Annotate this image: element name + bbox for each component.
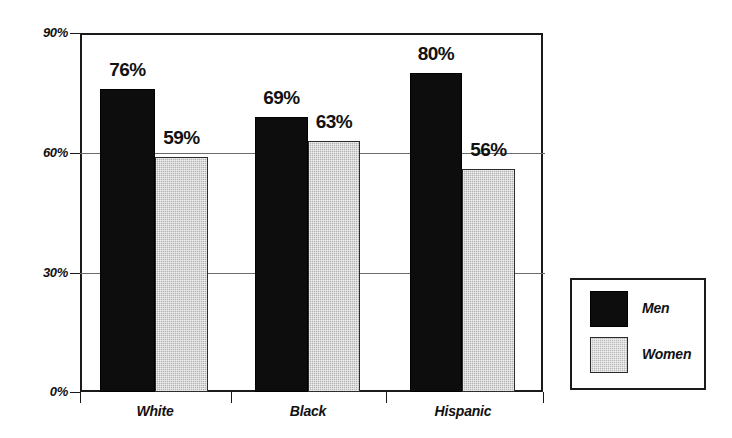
x-tick-start <box>80 392 81 403</box>
value-label-white-women: 59% <box>155 128 208 147</box>
legend: Men Women <box>570 278 706 390</box>
gray-swatch-icon <box>590 337 628 373</box>
bar-black-women <box>308 141 360 392</box>
bar-white-women <box>155 157 208 392</box>
y-axis-label-30: 30% <box>6 266 68 279</box>
x-axis-label-black: Black <box>258 404 358 419</box>
x-axis-label-hispanic: Hispanic <box>412 404 514 419</box>
legend-item-women: Women <box>572 337 704 377</box>
y-axis-label-90: 90% <box>6 26 68 39</box>
y-tick-90 <box>70 33 80 34</box>
y-axis-label-0: 0% <box>6 385 68 398</box>
bar-hispanic-women <box>462 169 515 392</box>
bar-hispanic-men <box>410 73 462 392</box>
y-tick-0 <box>70 392 80 393</box>
y-axis-label-90-wrap: 90% <box>0 26 68 40</box>
y-axis-label-0-wrap: 0% <box>0 385 68 399</box>
legend-label-women: Women <box>642 346 691 363</box>
x-tick-end <box>543 392 544 403</box>
y-axis-label-30-wrap: 30% <box>0 266 68 280</box>
value-label-black-women: 63% <box>308 112 360 131</box>
bar-black-men <box>255 117 308 392</box>
y-tick-30 <box>70 273 80 274</box>
x-axis-label-white: White <box>105 404 205 419</box>
x-tick-2 <box>386 392 387 403</box>
y-axis-label-60: 60% <box>6 146 68 159</box>
bar-white-men <box>100 89 155 392</box>
value-label-black-men: 69% <box>255 88 308 107</box>
black-swatch-icon <box>590 291 628 327</box>
y-axis-label-60-wrap: 60% <box>0 146 68 160</box>
legend-item-men: Men <box>572 291 704 331</box>
bar-chart: 90% 60% 30% 0% 76% 59% 69% 63% 80% 56% W… <box>0 0 732 438</box>
value-label-white-men: 76% <box>100 60 155 79</box>
value-label-hispanic-men: 80% <box>410 44 462 63</box>
legend-label-men: Men <box>642 300 669 317</box>
x-tick-1 <box>231 392 232 403</box>
value-label-hispanic-women: 56% <box>462 140 515 159</box>
y-tick-60 <box>70 153 80 154</box>
